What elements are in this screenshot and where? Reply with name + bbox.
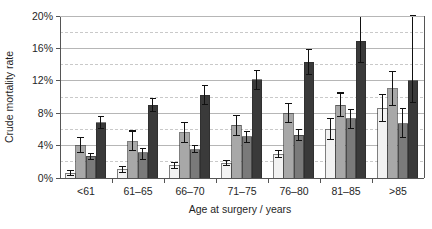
chart-figure: 0%4%8%12%16%20%<6161–6566–7071–7576–8081… — [0, 0, 432, 229]
bar-series-3-group-2 — [190, 150, 200, 178]
y-tick-label: 0% — [38, 172, 53, 184]
bar-series-2-group-4 — [284, 113, 294, 178]
y-tick-label: 16% — [32, 42, 53, 54]
y-tick-label: 8% — [38, 107, 53, 119]
x-tick-label-4: 76–80 — [279, 185, 308, 197]
bar-series-group — [66, 41, 418, 178]
bar-series-4-group-1 — [148, 105, 158, 178]
y-tick-label: 4% — [38, 139, 53, 151]
bar-chart-svg: 0%4%8%12%16%20%<6161–6566–7071–7576–8081… — [0, 0, 432, 229]
bar-series-4-group-0 — [96, 123, 106, 178]
y-tick-label: 20% — [32, 10, 53, 22]
x-tick-label-5: 81–85 — [331, 185, 360, 197]
bar-series-3-group-4 — [294, 135, 304, 178]
bar-series-4-group-4 — [304, 62, 314, 178]
bar-series-4-group-2 — [200, 95, 210, 178]
x-axis-title: Age at surgery / years — [189, 203, 292, 215]
x-tick-label-3: 71–75 — [227, 185, 256, 197]
bar-series-4-group-3 — [252, 80, 262, 178]
x-tick-label-0: <61 — [77, 185, 95, 197]
x-tick-label-2: 66–70 — [175, 185, 204, 197]
x-tick-label-1: 61–65 — [123, 185, 152, 197]
x-tick-label-6: >85 — [389, 185, 407, 197]
y-axis-title: Crude mortality rate — [3, 51, 15, 143]
y-tick-label: 12% — [32, 74, 53, 86]
